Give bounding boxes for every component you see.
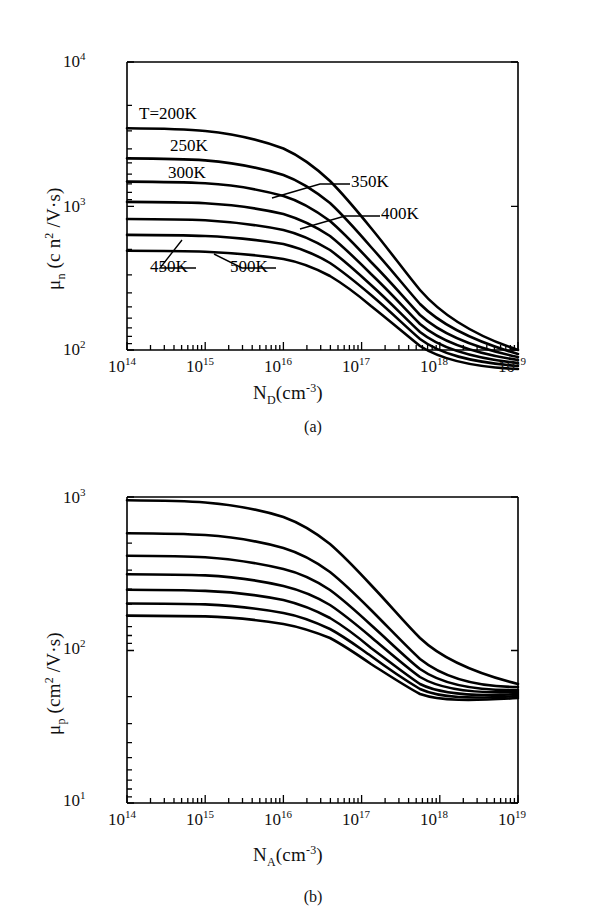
panel-b-xtick-16: 1016: [264, 808, 292, 830]
panel-b-x-unit-open: (cm: [276, 844, 306, 865]
panel-b-x-unit-close: ): [316, 844, 323, 865]
panel-b-axes-frame: [127, 497, 518, 803]
panel-b-y-minor-ticks: [127, 497, 134, 803]
xtick-exp: 16: [281, 808, 292, 820]
curve-b-450K: [127, 604, 518, 698]
panel-b-x-base: N: [253, 844, 267, 865]
panel-b-xtick-15: 1015: [186, 808, 214, 830]
panel-b-plot-area: [0, 0, 598, 924]
xtick-mantissa: 10: [342, 810, 359, 829]
panel-b-xtick-19: 1019: [498, 808, 526, 830]
panel-b-x-minor-ticks: [127, 795, 518, 803]
xtick-mantissa: 10: [264, 810, 281, 829]
xtick-mantissa: 10: [420, 810, 437, 829]
panel-b-x-unit-sup: -3: [306, 843, 316, 857]
xtick-mantissa: 10: [498, 810, 515, 829]
panel-b-xtick-17: 1017: [342, 808, 370, 830]
panel-b-xtick-14: 1014: [108, 808, 136, 830]
curve-b-200K: [127, 500, 518, 684]
panel-b: μp (cm2 /V·s) 103 102 101: [0, 0, 598, 924]
xtick-exp: 19: [515, 808, 526, 820]
xtick-exp: 14: [125, 808, 136, 820]
curve-b-350K: [127, 574, 518, 692]
xtick-exp: 17: [359, 808, 370, 820]
panel-b-x-sub: A: [267, 855, 276, 869]
panel-b-x-axis-label: NA(cm-3): [253, 843, 323, 870]
panel-b-curves: [127, 500, 518, 700]
panel-b-caption: (b): [283, 888, 343, 906]
panel-b-xtick-18: 1018: [420, 808, 448, 830]
xtick-mantissa: 10: [186, 810, 203, 829]
figure-container: μn (c n2 /V·s) 104 103 102: [0, 0, 598, 924]
xtick-exp: 18: [437, 808, 448, 820]
xtick-exp: 15: [203, 808, 214, 820]
curve-b-500K: [127, 616, 518, 700]
xtick-mantissa: 10: [108, 810, 125, 829]
panel-b-y-minor-ticks-right: [511, 497, 518, 803]
